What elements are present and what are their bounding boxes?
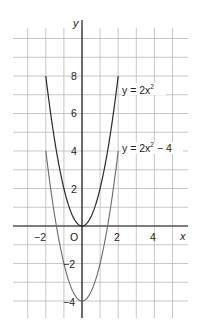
origin-label: O	[70, 231, 78, 243]
x-tick-2: 2	[114, 231, 120, 243]
x-tick-4: 4	[150, 231, 156, 243]
x-axis-label: x	[179, 230, 186, 242]
y-tick-2: 2	[71, 183, 77, 195]
svg-text:y = 2x2: y = 2x2	[122, 83, 154, 96]
y-tick-neg2: −2	[63, 258, 75, 270]
curve2-label-suffix: − 4	[154, 142, 172, 154]
curve2-label: y = 2x2 − 4	[121, 141, 183, 154]
y-tick-4: 4	[71, 145, 77, 157]
svg-text:y = 2x2 − 4: y = 2x2 − 4	[122, 141, 172, 154]
grid	[13, 28, 188, 318]
curve1-label-text: y = 2x	[122, 84, 151, 96]
y-tick-8: 8	[71, 70, 77, 82]
curve1-label-exponent: 2	[150, 83, 154, 90]
y-tick-6: 6	[71, 107, 77, 119]
x-tick-neg2: −2	[34, 231, 46, 243]
parabola-chart: y x O −2 2 4 8 6 4 2 −2 −4 y = 2x2 y = 2…	[0, 0, 200, 336]
y-tick-neg4: −4	[63, 296, 75, 308]
y-axis-label: y	[72, 17, 80, 29]
curve1-label: y = 2x2	[121, 83, 166, 96]
curve2-label-text: y = 2x	[122, 142, 151, 154]
